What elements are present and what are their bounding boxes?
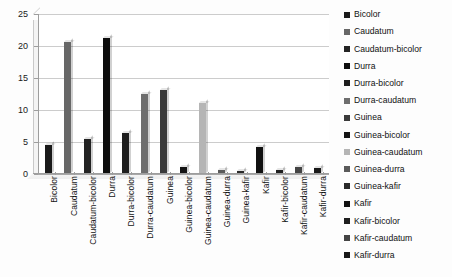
- legend-label: Kafir-durra: [354, 251, 395, 260]
- x-tick-mark: [304, 172, 305, 175]
- bar-kafir-bicolor[interactable]: [276, 170, 283, 173]
- legend-label: Guinea-durra: [354, 165, 405, 174]
- chart-legend: BicolorCaudatumCaudatum-bicolorDurraDurr…: [344, 6, 452, 264]
- bar-slot: [135, 14, 154, 173]
- legend-swatch-icon: [344, 80, 350, 86]
- x-tick-mark: [93, 172, 94, 175]
- bar-chart: 0510152025 BicolorCaudatumCaudatum-bicol…: [0, 0, 452, 277]
- legend-item-kafir-bicolor[interactable]: Kafir-bicolor: [344, 212, 452, 229]
- x-tick-label-kafir-bicolor: Kafir-bicolor: [281, 176, 290, 223]
- y-tick-label-10: 10: [18, 106, 28, 115]
- legend-item-guinea-caudatum[interactable]: Guinea-caudatum: [344, 144, 452, 161]
- bar-caudatum[interactable]: [64, 42, 71, 173]
- bar-slot: [212, 14, 231, 173]
- bar-slot: [269, 14, 288, 173]
- x-tick-mark: [131, 172, 132, 175]
- bar-slot: [173, 14, 192, 173]
- x-tick-label-guinea: Guinea: [166, 176, 175, 204]
- legend-label: Caudatum: [354, 27, 394, 36]
- legend-label: Bicolor: [354, 10, 380, 19]
- bar-slot: [250, 14, 269, 173]
- y-tick-label-20: 20: [18, 42, 28, 51]
- x-tick-mark: [151, 172, 152, 175]
- y-tick-label-15: 15: [18, 74, 28, 83]
- legend-item-guinea[interactable]: Guinea: [344, 109, 452, 126]
- bar-guinea-durra[interactable]: [218, 170, 225, 173]
- legend-swatch-icon: [344, 252, 350, 258]
- legend-label: Guinea-bicolor: [354, 131, 410, 140]
- legend-label: Kafir-caudatum: [354, 234, 412, 243]
- x-tick-label-kafir: Kafir: [262, 176, 271, 194]
- legend-label: Durra: [354, 62, 376, 71]
- x-tick-label-guinea-kafir: Guinea-kafir: [242, 176, 251, 224]
- legend-item-guinea-durra[interactable]: Guinea-durra: [344, 161, 452, 178]
- legend-swatch-icon: [344, 12, 350, 18]
- bar-series: [39, 14, 327, 173]
- x-tick-mark: [208, 172, 209, 175]
- bar-kafir-caudatum[interactable]: [295, 167, 302, 173]
- legend-swatch-icon: [344, 166, 350, 172]
- bar-bicolor[interactable]: [45, 145, 52, 173]
- bar-guinea-bicolor[interactable]: [180, 167, 187, 173]
- bar-slot: [289, 14, 308, 173]
- bar-durra-caudatum[interactable]: [141, 94, 148, 173]
- legend-item-guinea-bicolor[interactable]: Guinea-bicolor: [344, 126, 452, 143]
- x-tick-mark: [112, 172, 113, 175]
- bar-guinea[interactable]: [160, 90, 167, 173]
- bar-kafir[interactable]: [256, 147, 263, 173]
- x-tick-label-guinea-durra: Guinea-durra: [223, 176, 232, 227]
- legend-item-caudatum-bicolor[interactable]: Caudatum-bicolor: [344, 40, 452, 57]
- x-tick-mark: [55, 172, 56, 175]
- x-axis-labels: BicolorCaudatumCaudatum-bicolorDurraDurr…: [39, 176, 335, 272]
- x-tick-mark: [323, 172, 324, 175]
- legend-swatch-icon: [344, 46, 350, 52]
- bar-durra-bicolor[interactable]: [122, 133, 129, 173]
- x-tick-mark: [285, 172, 286, 175]
- x-tick-mark: [266, 172, 267, 175]
- bar-slot: [154, 14, 173, 173]
- bar-slot: [97, 14, 116, 173]
- legend-swatch-icon: [344, 183, 350, 189]
- x-tick-label-durra: Durra: [108, 176, 117, 198]
- legend-item-durra-caudatum[interactable]: Durra-caudatum: [344, 92, 452, 109]
- x-tick-mark: [170, 172, 171, 175]
- legend-label: Kafir: [354, 199, 372, 208]
- legend-swatch-icon: [344, 201, 350, 207]
- bar-caudatum-bicolor[interactable]: [84, 139, 91, 173]
- bar-slot: [231, 14, 250, 173]
- x-tick-mark: [74, 172, 75, 175]
- legend-swatch-icon: [344, 98, 350, 104]
- legend-item-bicolor[interactable]: Bicolor: [344, 6, 452, 23]
- legend-swatch-icon: [344, 149, 350, 155]
- x-tick-label-durra-caudatum: Durra-caudatum: [146, 176, 155, 239]
- bar-kafir-durra[interactable]: [314, 168, 321, 173]
- legend-item-kafir-durra[interactable]: Kafir-durra: [344, 247, 452, 264]
- x-tick-label-caudatum-bicolor: Caudatum-bicolor: [89, 176, 98, 245]
- legend-item-guinea-kafir[interactable]: Guinea-kafir: [344, 178, 452, 195]
- legend-label: Durra-caudatum: [354, 96, 416, 105]
- x-tick-label-guinea-bicolor: Guinea-bicolor: [185, 176, 194, 233]
- legend-item-kafir[interactable]: Kafir: [344, 195, 452, 212]
- legend-item-durra-bicolor[interactable]: Durra-bicolor: [344, 75, 452, 92]
- x-tick-mark: [189, 172, 190, 175]
- legend-item-durra[interactable]: Durra: [344, 58, 452, 75]
- legend-swatch-icon: [344, 235, 350, 241]
- bar-slot: [58, 14, 77, 173]
- bar-durra[interactable]: [103, 38, 110, 173]
- legend-item-caudatum[interactable]: Caudatum: [344, 23, 452, 40]
- bar-guinea-kafir[interactable]: [237, 171, 244, 173]
- y-tick-label-0: 0: [23, 170, 28, 179]
- legend-swatch-icon: [344, 63, 350, 69]
- legend-swatch-icon: [344, 218, 350, 224]
- legend-label: Guinea-kafir: [354, 182, 401, 191]
- legend-label: Caudatum-bicolor: [354, 45, 422, 54]
- bar-guinea-caudatum[interactable]: [199, 103, 206, 173]
- legend-swatch-icon: [344, 115, 350, 121]
- y-tick-label-5: 5: [23, 138, 28, 147]
- x-tick-label-bicolor: Bicolor: [50, 176, 59, 203]
- x-tick-label-guinea-caudatum: Guinea-caudatum: [204, 176, 213, 245]
- legend-swatch-icon: [344, 29, 350, 35]
- legend-label: Guinea-caudatum: [354, 148, 422, 157]
- legend-item-kafir-caudatum[interactable]: Kafir-caudatum: [344, 229, 452, 246]
- x-tick-label-kafir-caudatum: Kafir-caudatum: [300, 176, 309, 235]
